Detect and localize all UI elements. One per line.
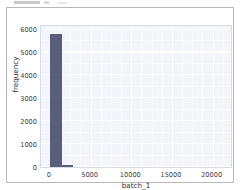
x-axis-ticks: 05000100001500020000 <box>40 171 232 181</box>
y-tick-label: 2000 <box>7 119 37 126</box>
y-tick-label: 1000 <box>7 142 37 149</box>
gridline-minor-vertical <box>192 26 193 167</box>
gridline-minor-vertical <box>162 26 163 167</box>
artifact-smudge-2 <box>44 1 49 4</box>
gridline-minor-vertical <box>223 26 224 167</box>
gridline-minor-vertical <box>202 26 203 167</box>
gridline-minor-vertical <box>121 26 122 167</box>
x-tick-label: 15000 <box>151 171 191 179</box>
x-tick-label: 20000 <box>192 171 232 179</box>
plot-area <box>40 25 232 168</box>
y-tick-label: 6000 <box>7 27 37 34</box>
gridline-minor-vertical <box>80 26 81 167</box>
x-axis-label: batch_1 <box>40 181 232 189</box>
gridline-minor-vertical <box>141 26 142 167</box>
gridline-major-vertical <box>213 26 214 167</box>
histogram-bar <box>62 165 73 167</box>
artifact-smudge-3 <box>58 2 67 4</box>
gridline-minor-vertical <box>152 26 153 167</box>
histogram-bar <box>50 34 62 167</box>
x-tick-label: 5000 <box>70 171 110 179</box>
gridline-minor-vertical <box>101 26 102 167</box>
figure-frame: 0100020003000400050006000 05000100001500… <box>6 7 234 183</box>
top-edge-artifact <box>0 0 240 7</box>
gridline-minor-vertical <box>182 26 183 167</box>
gridline-minor-vertical <box>111 26 112 167</box>
gridline-minor-vertical <box>70 26 71 167</box>
x-tick-label: 10000 <box>110 171 150 179</box>
gridline-major-vertical <box>172 26 173 167</box>
gridline-major-vertical <box>131 26 132 167</box>
artifact-smudge-1 <box>14 1 40 4</box>
gridline-major-vertical <box>91 26 92 167</box>
x-tick-label: 0 <box>29 171 69 179</box>
y-axis-label: frequency <box>11 45 20 105</box>
